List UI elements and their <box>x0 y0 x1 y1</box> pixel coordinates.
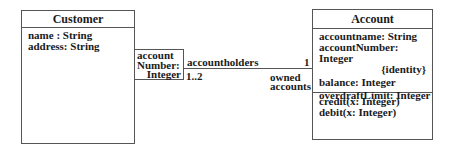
qualifier-line-3: Integer <box>137 70 181 80</box>
customer-class: Customer name : String address: String <box>21 10 135 144</box>
account-end-role-line-2: accounts <box>270 81 311 91</box>
customer-attribute-address: address: String <box>22 41 134 52</box>
account-end-multiplicity: 1 <box>304 57 310 67</box>
account-attribute-identity: {identity} <box>313 64 432 75</box>
qualifier-box: account Number: Integer <box>134 49 184 80</box>
customer-class-name: Customer <box>22 11 134 28</box>
account-attribute-balance: balance: Integer <box>313 77 432 88</box>
account-operation-debit: debit(x: Integer) <box>313 107 432 118</box>
association-line <box>183 68 313 69</box>
account-class-name: Account <box>313 10 432 29</box>
account-class: Account accountname: String accountNumbe… <box>312 9 433 140</box>
association-name: accountholders <box>187 57 259 67</box>
account-attribute-accountnumber: accountNumber: Integer <box>313 42 432 64</box>
customer-end-multiplicity: 1..2 <box>186 71 203 81</box>
